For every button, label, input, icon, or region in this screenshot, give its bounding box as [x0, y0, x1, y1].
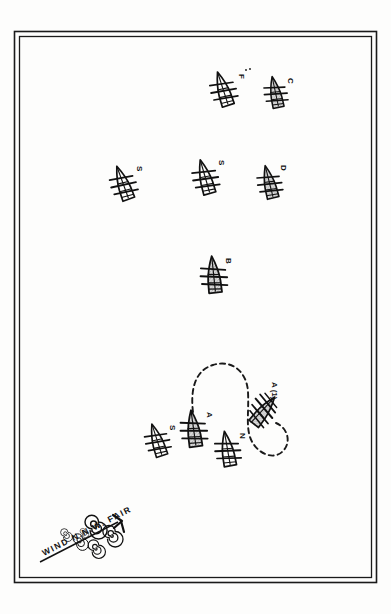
ship-marker-a[interactable]: [178, 408, 209, 448]
ship-label-n: N: [238, 433, 247, 439]
ship-label-a: A: [205, 412, 214, 418]
wind-arrow-tail-feather: [121, 521, 124, 532]
ship-trailing-dots-f: [245, 68, 251, 71]
ship-marker-s2[interactable]: [188, 156, 222, 197]
diagram-plate: F C S S: [0, 0, 391, 614]
figure-page: F C S S: [0, 0, 391, 614]
damaged-ship-label: A (1): [270, 382, 279, 400]
ship-label-s3: S: [168, 425, 177, 431]
naval-diagram-svg: F C S S: [0, 0, 391, 614]
ship-label-s1: S: [135, 166, 144, 172]
ship-label-b: B: [224, 258, 233, 264]
border-outer-rule: [15, 32, 377, 583]
weather-annotation: WIND N.N.W. FAIR: [40, 504, 133, 562]
border-inner-rule: [20, 37, 372, 578]
ship-label-c: C: [286, 78, 295, 84]
ship-label-d: D: [279, 165, 288, 171]
ship-label-f: F: [237, 74, 246, 79]
ship-label-s2: S: [217, 160, 226, 166]
ship-marker-f[interactable]: [206, 68, 241, 109]
plate-border: [15, 32, 377, 583]
ship-marker-c[interactable]: [261, 74, 290, 109]
wind-label: WIND N.N.W. FAIR: [40, 504, 133, 558]
